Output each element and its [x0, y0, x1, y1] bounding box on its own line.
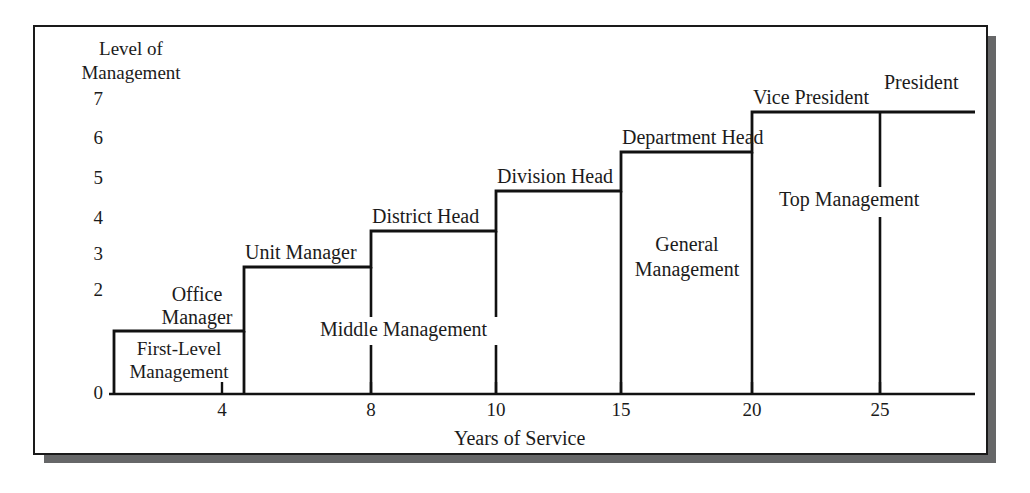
- step-label-office-manager-line-2: Manager: [147, 306, 247, 329]
- y-tick-label-4: 4: [77, 207, 103, 229]
- x-tick-label-4: 4: [204, 399, 240, 421]
- y-tick-label-7: 7: [77, 88, 103, 110]
- x-tick-label-15: 15: [603, 399, 639, 421]
- step-label-vice-president: Vice President: [753, 86, 869, 109]
- x-tick-label-8: 8: [353, 399, 389, 421]
- band-label-first-level-management: First-Level Management: [115, 337, 243, 383]
- x-tick-label-20: 20: [734, 399, 770, 421]
- figure-root: Level of Management 7 6 5 4 3 2 0 4 8 10…: [0, 0, 1030, 493]
- band-label-top-management: Top Management: [779, 187, 919, 212]
- step-label-president: President: [884, 71, 958, 94]
- y-tick-label-0: 0: [77, 382, 103, 404]
- step-label-office-manager-line-1: Office: [147, 283, 247, 306]
- x-axis-title: Years of Service: [454, 427, 585, 450]
- step-label-division-head: Division Head: [497, 165, 613, 188]
- y-tick-label-2: 2: [77, 279, 103, 301]
- chart-canvas: Level of Management 7 6 5 4 3 2 0 4 8 10…: [35, 27, 990, 457]
- x-axis-ticks: [222, 382, 880, 394]
- band-label-first-level-line-1: First-Level: [115, 337, 243, 360]
- x-tick-label-10: 10: [478, 399, 514, 421]
- y-axis-title-line-1: Level of: [61, 37, 201, 61]
- y-tick-label-5: 5: [77, 167, 103, 189]
- step-label-office-manager: Office Manager: [147, 283, 247, 329]
- step-label-district-head: District Head: [372, 205, 479, 228]
- y-tick-label-6: 6: [77, 127, 103, 149]
- y-axis-title: Level of Management: [61, 37, 201, 84]
- y-tick-label-3: 3: [77, 243, 103, 265]
- y-axis-title-line-2: Management: [61, 61, 201, 85]
- step-label-unit-manager: Unit Manager: [245, 241, 357, 264]
- chart-plate: Level of Management 7 6 5 4 3 2 0 4 8 10…: [33, 25, 988, 455]
- band-label-general-line-2: Management: [626, 257, 748, 282]
- x-tick-label-25: 25: [862, 399, 898, 421]
- step-label-department-head: Department Head: [622, 126, 764, 149]
- band-label-middle-management: Middle Management: [320, 317, 487, 342]
- band-label-first-level-line-2: Management: [115, 360, 243, 383]
- band-label-general-management: General Management: [626, 232, 748, 282]
- band-label-general-line-1: General: [626, 232, 748, 257]
